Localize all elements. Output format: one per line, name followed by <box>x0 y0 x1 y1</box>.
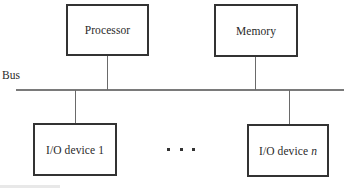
io-device-1-label: I/O device 1 <box>46 144 104 156</box>
io-device-1-box: I/O device 1 <box>33 123 117 176</box>
processor-box: Processor <box>66 4 149 56</box>
io-device-n-label: I/O device <box>259 145 308 157</box>
faint-caption-remnant <box>0 185 60 188</box>
io-device-n-connector <box>289 90 290 125</box>
memory-box: Memory <box>214 4 298 57</box>
processor-label: Processor <box>85 24 131 36</box>
io-device-n-suffix: n <box>311 145 317 157</box>
ellipsis-dot-2 <box>180 148 183 151</box>
processor-connector <box>107 56 108 90</box>
io-device-1-connector <box>75 90 76 124</box>
io-device-n-box: I/O devicen <box>247 124 329 177</box>
ellipsis-dot-1 <box>167 148 170 151</box>
bus-line <box>16 89 344 91</box>
memory-connector <box>255 57 256 90</box>
memory-label: Memory <box>236 25 276 37</box>
bus-label: Bus <box>2 69 20 81</box>
ellipsis-dot-3 <box>192 148 195 151</box>
